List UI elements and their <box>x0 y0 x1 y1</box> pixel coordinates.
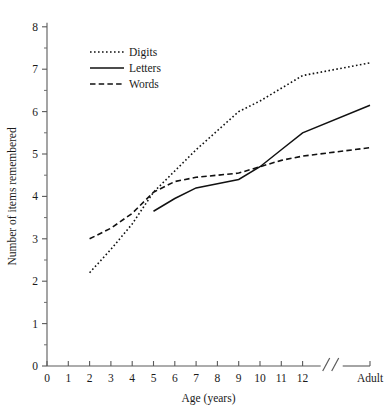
y-tick-label-4: 4 <box>32 190 38 202</box>
y-tick-label-6: 6 <box>32 106 38 118</box>
x-tick-label-9: 9 <box>236 372 242 384</box>
x-tick-label-6: 6 <box>172 372 178 384</box>
x-tick-label-Adult: Adult <box>357 372 384 384</box>
legend-label-words: Words <box>129 78 159 90</box>
x-tick-label-2: 2 <box>87 372 93 384</box>
x-tick-label-1: 1 <box>65 372 71 384</box>
y-tick-label-5: 5 <box>32 148 38 160</box>
data-series-group <box>90 63 370 273</box>
x-tick-label-7: 7 <box>193 372 199 384</box>
series-line-words <box>90 148 370 239</box>
series-line-letters <box>154 105 371 211</box>
y-tick-label-0: 0 <box>32 360 38 372</box>
y-tick-label-7: 7 <box>32 63 38 75</box>
y-axis-title: Number of items remembered <box>6 127 18 266</box>
y-tick-label-8: 8 <box>32 21 38 33</box>
axis-break-slash-1 <box>323 358 330 371</box>
x-tick-label-4: 4 <box>129 372 135 384</box>
legend-label-digits: Digits <box>129 46 158 59</box>
y-axis: 012345678 <box>32 21 47 372</box>
axis-titles: Age (years)Number of items remembered <box>6 127 236 405</box>
chart-legend: DigitsLettersWords <box>90 46 161 90</box>
y-tick-label-3: 3 <box>32 233 38 245</box>
x-axis: 0123456789101112Adult <box>44 358 384 384</box>
y-tick-label-1: 1 <box>32 318 38 330</box>
x-tick-label-12: 12 <box>297 372 309 384</box>
x-tick-label-10: 10 <box>254 372 266 384</box>
x-tick-label-8: 8 <box>215 372 221 384</box>
chart-canvas: 012345678 0123456789101112Adult DigitsLe… <box>0 0 389 416</box>
x-tick-label-3: 3 <box>108 372 114 384</box>
legend-label-letters: Letters <box>129 62 161 74</box>
x-axis-title: Age (years) <box>182 392 236 405</box>
axis-break-slash-2 <box>332 358 339 371</box>
x-tick-label-11: 11 <box>276 372 287 384</box>
memory-span-line-chart: 012345678 0123456789101112Adult DigitsLe… <box>0 0 389 416</box>
x-tick-label-5: 5 <box>151 372 157 384</box>
x-tick-label-0: 0 <box>44 372 50 384</box>
y-tick-label-2: 2 <box>32 275 38 287</box>
series-line-digits <box>90 63 370 273</box>
